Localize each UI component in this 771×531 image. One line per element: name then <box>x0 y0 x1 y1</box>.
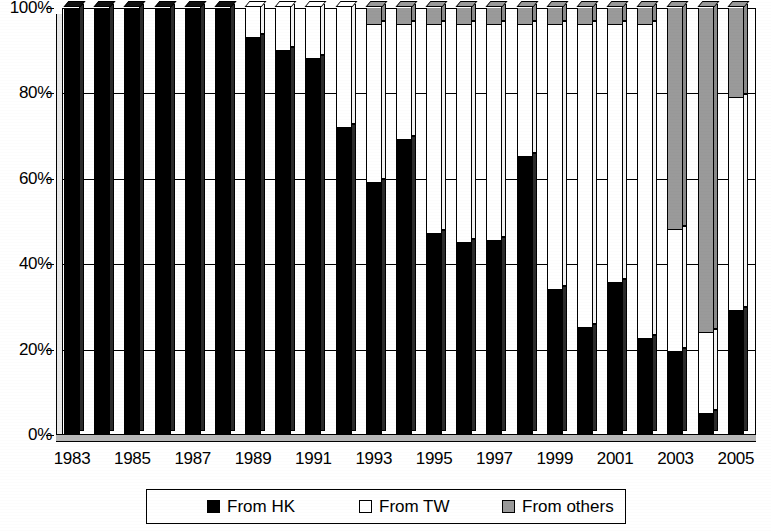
bar-segment-divider <box>396 139 412 140</box>
legend-item: From others <box>502 497 614 516</box>
legend-label: From others <box>522 497 614 516</box>
x-axis-tick-label: 2005 <box>708 449 764 468</box>
bar-segment-side-3d <box>713 4 718 329</box>
bar-segment-side-3d <box>351 124 356 431</box>
bar-segment-divider <box>667 229 683 230</box>
bar-segment-from-hk <box>577 328 593 435</box>
bar <box>336 8 352 435</box>
bar-segment-side-3d <box>562 21 567 286</box>
bar-segment-from-hk <box>486 241 502 435</box>
bar <box>245 8 261 435</box>
stacked-bar-chart: 0%20%40%60%80%100% 198319851987198919911… <box>0 0 771 531</box>
legend-label: From HK <box>227 497 295 516</box>
bar-segment-from-hk <box>517 157 533 435</box>
bar-segment-divider <box>426 233 442 234</box>
bar-segment-side-3d <box>652 335 657 431</box>
bar-segment-side-3d <box>411 21 416 136</box>
bar-segment-side-3d <box>562 286 567 431</box>
bar <box>698 8 714 435</box>
y-axis: 0%20%40%60%80%100% <box>0 0 54 460</box>
bar-segment-from-hk <box>336 128 352 435</box>
bar-segment-divider <box>577 327 593 328</box>
bar-segment-from-others <box>577 8 593 25</box>
x-axis-tick-label: 2001 <box>587 449 643 468</box>
bar-segment-divider <box>698 332 714 333</box>
bar-segment-side-3d <box>441 230 446 431</box>
bar-segment-side-3d <box>743 307 748 431</box>
bar-segment-from-hk <box>275 51 291 435</box>
bar-segment-from-tw <box>637 25 653 339</box>
bar-segment-from-others <box>456 8 472 25</box>
bar-segment-side-3d <box>682 348 687 431</box>
bar-segment-from-tw <box>245 8 261 38</box>
bar-segment-divider <box>275 50 291 51</box>
bar-segment-side-3d <box>501 21 506 237</box>
y-axis-tick-mark <box>46 8 54 9</box>
bar-segment-from-hk <box>396 140 412 435</box>
bar <box>305 8 321 435</box>
bar-segment-divider <box>547 289 563 290</box>
legend-swatch-icon <box>359 500 372 513</box>
x-axis-tick-label: 1995 <box>406 449 462 468</box>
bar-segment-side-3d <box>743 94 748 308</box>
bar-segment-side-3d <box>290 4 295 47</box>
bar-segment-from-others <box>517 8 533 25</box>
bar-segment-divider <box>336 127 352 128</box>
bar-segment-side-3d <box>652 21 657 335</box>
legend-item: From TW <box>359 497 450 516</box>
y-axis-tick-mark <box>46 350 54 351</box>
bar-segment-side-3d <box>381 21 386 179</box>
bar <box>185 8 201 435</box>
bar-segment-divider <box>486 24 502 25</box>
bar-segment-from-hk <box>64 8 80 435</box>
bar-segment-from-hk <box>305 59 321 435</box>
bar-segment-divider <box>366 24 382 25</box>
bar <box>456 8 472 435</box>
bar-segment-from-others <box>547 8 563 25</box>
bar-segment-side-3d <box>441 21 446 230</box>
bar-segment-side-3d <box>411 136 416 431</box>
bar-segment-divider <box>728 310 744 311</box>
bar <box>366 8 382 435</box>
bar-segment-side-3d <box>622 21 627 279</box>
bar <box>607 8 623 435</box>
y-axis-tick-mark <box>46 264 54 265</box>
bar-segment-side-3d <box>682 4 687 226</box>
bar-segment-side-3d <box>290 47 295 431</box>
legend-swatch-icon <box>502 500 515 513</box>
x-axis-tick-label: 1999 <box>527 449 583 468</box>
bar-segment-divider <box>637 338 653 339</box>
bar <box>396 8 412 435</box>
axis-floor-face-3d <box>56 434 756 442</box>
bar-segment-side-3d <box>471 21 476 239</box>
bar-segment-from-hk <box>547 290 563 435</box>
bar-segment-from-others <box>486 8 502 25</box>
bar-segment-side-3d <box>260 4 265 34</box>
bar-segment-side-3d <box>109 4 114 431</box>
legend-swatch-icon <box>207 500 220 513</box>
x-axis-tick-label: 2003 <box>647 449 703 468</box>
bar-segment-from-tw <box>336 8 352 128</box>
bar-segment-from-tw <box>698 333 714 414</box>
bar-segment-from-tw <box>305 8 321 59</box>
bar-segment-from-hk <box>94 8 110 435</box>
x-axis-tick-label: 1993 <box>346 449 402 468</box>
bar-segment-divider <box>456 24 472 25</box>
x-axis-tick-label: 1991 <box>285 449 341 468</box>
bar-segment-side-3d <box>381 179 386 431</box>
bar-segment-from-tw <box>547 25 563 290</box>
x-axis-tick-label: 1985 <box>104 449 160 468</box>
bar-segment-from-hk <box>637 339 653 435</box>
bar <box>637 8 653 435</box>
bar-segment-side-3d <box>351 4 356 124</box>
bar-segment-divider <box>305 58 321 59</box>
bar-segment-side-3d <box>471 239 476 431</box>
bar-segment-from-hk <box>366 183 382 435</box>
bar-segment-side-3d <box>139 4 144 431</box>
bar <box>155 8 171 435</box>
bar-segment-from-tw <box>275 8 291 51</box>
bars-layer <box>62 8 756 435</box>
bar-segment-divider <box>698 413 714 414</box>
bar <box>275 8 291 435</box>
legend-label: From TW <box>379 497 450 516</box>
